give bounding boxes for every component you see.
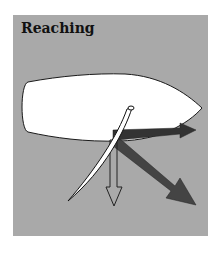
- sailing-diagram: [0, 0, 221, 255]
- mast-icon: [128, 106, 134, 110]
- total-force-arrow: [113, 138, 196, 205]
